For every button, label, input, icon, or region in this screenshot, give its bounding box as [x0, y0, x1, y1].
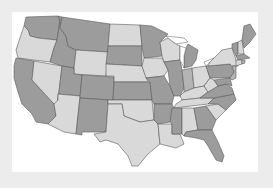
state-nm [76, 98, 108, 135]
states-layer [14, 16, 256, 166]
state-sd [106, 46, 142, 66]
state-mi [184, 44, 198, 68]
state-ma [236, 54, 250, 60]
state-ri [242, 60, 245, 64]
state-ms [170, 108, 182, 134]
state-wy [74, 50, 108, 76]
state-ct [236, 60, 242, 66]
state-nd [108, 24, 142, 46]
state-ks [113, 82, 152, 100]
state-fl [184, 130, 224, 162]
us-states-map [0, 0, 273, 188]
state-me [242, 24, 256, 48]
state-co [80, 75, 114, 100]
